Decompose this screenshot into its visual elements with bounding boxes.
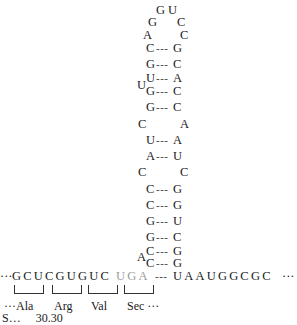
stem-left-base: G: [146, 85, 155, 98]
figure-caption: S… 30.30: [2, 312, 63, 325]
stem-right-base: C: [180, 166, 188, 179]
stem-right-base: C: [173, 58, 181, 71]
bulge-base: U: [137, 79, 146, 92]
stem-right-base: U: [173, 215, 182, 228]
stem-left-base: G: [146, 58, 155, 71]
codon-bracket-ala: [14, 285, 44, 294]
stem-left-base: C: [146, 42, 154, 55]
leading-ellipsis: ···: [0, 270, 13, 283]
base-pair-bond: ---: [156, 257, 169, 270]
base-pair-bond: ---: [156, 183, 169, 196]
codon-label-sec: Sec ···: [127, 300, 159, 313]
stem-right-base: A: [180, 118, 189, 131]
base-pair-bond: ---: [155, 270, 168, 283]
stem-left-base: G: [146, 215, 155, 228]
stem-right-base: C: [173, 231, 181, 244]
stem-left-base: C: [138, 166, 146, 179]
stem-left-base: C: [138, 118, 146, 131]
base-pair-bond: ---: [156, 215, 169, 228]
base-pair-bond: ---: [156, 231, 169, 244]
downstream-sequence: UAAUGGCGC: [173, 270, 273, 283]
codons-ala-arg-val: GCUCGUGUC: [12, 270, 111, 283]
stem-right-base: C: [173, 85, 181, 98]
stem-right-base: G: [173, 199, 182, 212]
stem-left-base: C: [146, 183, 154, 196]
base-pair-bond: ---: [156, 58, 169, 71]
stem-right-base: C: [173, 101, 181, 114]
base-pair-bond: ---: [156, 101, 169, 114]
trailing-ellipsis: ···: [282, 270, 295, 283]
base-pair-bond: ---: [156, 42, 169, 55]
codon-bracket-arg: [52, 285, 82, 294]
base-pair-bond: ---: [156, 72, 169, 85]
loop-base: U: [168, 4, 177, 17]
stem-right-base: U: [173, 150, 182, 163]
stem-left-base: G: [146, 231, 155, 244]
bulge-base: A: [137, 251, 146, 264]
base-pair-bond: ---: [156, 199, 169, 212]
loop-base: G: [156, 4, 165, 17]
stem-left-base: U: [146, 134, 155, 147]
stem-right-base: A: [173, 134, 182, 147]
base-pair-bond: ---: [156, 134, 169, 147]
stem-left-base: C: [146, 199, 154, 212]
base-pair-bond: ---: [156, 150, 169, 163]
base-pair-bond: ---: [156, 85, 169, 98]
stem-left-base: A: [146, 150, 155, 163]
codon-bracket-val: [88, 285, 118, 294]
stem-right-base: G: [173, 183, 182, 196]
codon-label-val: Val: [91, 300, 107, 313]
sec-codon-uga: UGA: [116, 270, 150, 283]
stem-left-base: G: [146, 101, 155, 114]
codon-bracket-sec: [124, 285, 154, 294]
stem-right-base: G: [173, 42, 182, 55]
